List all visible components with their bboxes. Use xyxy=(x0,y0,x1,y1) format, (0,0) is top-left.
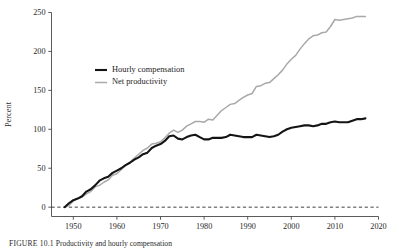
x-tick-label-1950: 1950 xyxy=(65,222,81,231)
x-tick-label-1960: 1960 xyxy=(109,222,125,231)
legend-label-1: Hourly compensation xyxy=(112,65,185,74)
x-tick-label-2010: 2010 xyxy=(327,222,343,231)
figure-caption-text: Productivity and hourly compensation xyxy=(56,239,172,248)
y-tick-label-100: 100 xyxy=(33,125,45,134)
y-axis-ticks xyxy=(48,13,51,208)
x-tick-label-1990: 1990 xyxy=(240,222,256,231)
y-tick-label-150: 150 xyxy=(33,86,45,95)
figure-container: 050100150200250 195019601970198019902000… xyxy=(0,0,399,248)
y-tick-label-250: 250 xyxy=(33,8,45,17)
series-line-hourly-compensation xyxy=(65,118,366,207)
x-tick-label-2000: 2000 xyxy=(283,222,299,231)
chart-legend: Hourly compensationNet productivity xyxy=(95,65,185,87)
y-tick-label-0: 0 xyxy=(41,203,45,212)
series-line-net-productivity xyxy=(65,16,366,207)
x-axis-ticks xyxy=(73,217,378,220)
y-tick-label-50: 50 xyxy=(37,164,45,173)
x-axis-tick-labels: 19501960197019801990200020102020 xyxy=(65,222,387,231)
y-axis-title: Percent xyxy=(4,101,13,127)
y-tick-label-200: 200 xyxy=(33,47,45,56)
x-tick-label-1980: 1980 xyxy=(196,222,212,231)
figure-caption-lead: FIGURE 10.1 xyxy=(9,239,54,248)
x-tick-label-1970: 1970 xyxy=(152,222,168,231)
legend-label-2: Net productivity xyxy=(112,77,168,86)
chart-axes xyxy=(48,13,378,220)
y-axis-tick-labels: 050100150200250 xyxy=(33,8,45,212)
x-tick-label-2020: 2020 xyxy=(370,222,386,231)
figure-caption: FIGURE 10.1 Productivity and hourly comp… xyxy=(9,239,393,248)
line-chart: 050100150200250 195019601970198019902000… xyxy=(0,0,399,248)
